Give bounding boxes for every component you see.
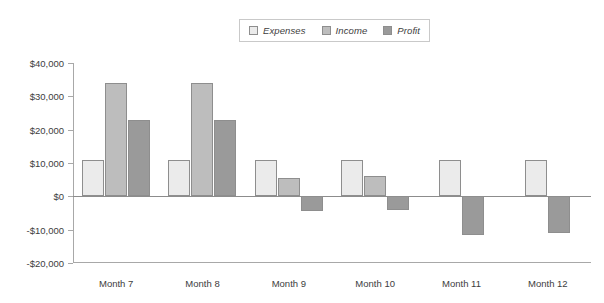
bar-group — [418, 63, 504, 263]
x-axis-label: Month 8 — [185, 278, 219, 289]
y-axis-tick-label: $40,000 — [30, 58, 64, 69]
bar-income — [191, 83, 213, 196]
legend-item-income: Income — [322, 25, 368, 36]
legend-swatch-income-icon — [322, 26, 331, 35]
y-axis-tick-label: -$10,000 — [26, 224, 64, 235]
bar-profit — [301, 196, 323, 211]
bar-profit — [387, 196, 409, 209]
legend-swatch-profit-icon — [383, 26, 392, 35]
x-axis-label: Month 12 — [528, 278, 568, 289]
bar-chart: Expenses Income Profit $40,000$30,000$20… — [0, 0, 604, 303]
bar-group — [73, 63, 159, 263]
y-axis-tick-label: $0 — [53, 191, 64, 202]
legend-label-income: Income — [336, 25, 368, 36]
bar-profit — [214, 120, 236, 197]
bar-income — [278, 178, 300, 196]
x-axis-label: Month 9 — [272, 278, 306, 289]
bar-profit — [548, 196, 570, 233]
bar-group — [159, 63, 245, 263]
chart-legend: Expenses Income Profit — [239, 19, 430, 42]
y-axis-tick: -$20,000 — [68, 263, 73, 264]
bar-profit — [128, 120, 150, 197]
legend-item-expenses: Expenses — [249, 25, 306, 36]
bar-expenses — [439, 160, 461, 197]
x-axis-label: Month 7 — [99, 278, 133, 289]
bar-expenses — [525, 160, 547, 197]
legend-swatch-expenses-icon — [249, 26, 258, 35]
legend-label-expenses: Expenses — [263, 25, 306, 36]
bar-group — [332, 63, 418, 263]
bar-income — [364, 176, 386, 196]
bar-expenses — [82, 160, 104, 197]
bar-group — [505, 63, 591, 263]
legend-label-profit: Profit — [397, 25, 420, 36]
y-axis-tick-label: $10,000 — [30, 158, 64, 169]
bar-expenses — [341, 160, 363, 197]
bar-expenses — [168, 160, 190, 197]
y-axis-tick-label: $20,000 — [30, 124, 64, 135]
bar-group — [246, 63, 332, 263]
y-axis-tick-label: $30,000 — [30, 91, 64, 102]
y-axis-tick-label: -$20,000 — [26, 258, 64, 269]
bar-expenses — [255, 160, 277, 197]
legend-item-profit: Profit — [383, 25, 420, 36]
plot-area: $40,000$30,000$20,000$10,000$0-$10,000-$… — [73, 63, 591, 263]
bar-income — [105, 83, 127, 196]
bar-profit — [462, 196, 484, 234]
x-axis-label: Month 11 — [442, 278, 481, 289]
x-axis-label: Month 10 — [355, 278, 395, 289]
